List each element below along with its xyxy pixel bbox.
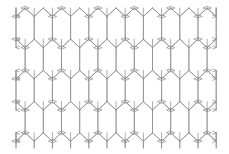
lattice-canvas [0, 0, 229, 154]
hexagon-lattice-figure [0, 0, 229, 154]
